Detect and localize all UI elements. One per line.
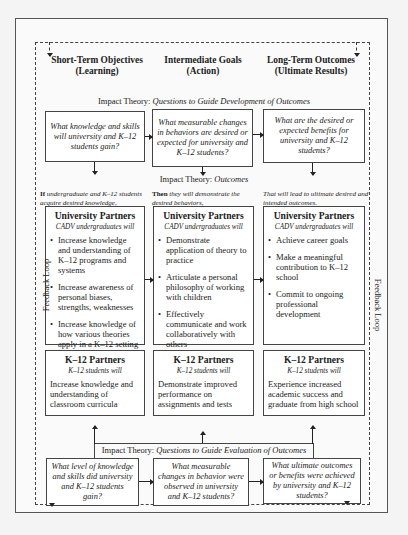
list-item: Commit to ongoing professional developme… (268, 289, 360, 319)
lead-then: Then they will demonstrate the desired b… (152, 190, 260, 207)
arrow-up-icon (312, 426, 313, 444)
list-item: Achieve career goals (268, 235, 360, 245)
feedback-loop-left-label: Feedback Loop (41, 255, 51, 315)
outcomes-heading: Impact Theory: Outcomes (34, 174, 374, 184)
list-item: Effectively communicate and work collabo… (158, 309, 249, 349)
k12-partners-long-term: K–12 Partners K–12 students will Experie… (263, 350, 365, 416)
loop-arrow-top-left-icon (49, 42, 50, 56)
list-item: Demonstrate application of theory to pra… (158, 235, 249, 265)
evaluation-question-2: What measurable changes in behavior were… (153, 458, 249, 506)
evaluation-question-1: What level of knowledge and skills did u… (46, 458, 139, 506)
list-item: Increase knowledge and understanding of … (50, 235, 140, 275)
arrow-right-icon (145, 279, 153, 280)
university-partners-short-term: University Partners CADV undergraduates … (45, 206, 145, 345)
university-partners-long-term: University Partners CADV undergraduates … (263, 206, 365, 345)
k12-partners-intermediate: K–12 Partners K–12 students will Demonst… (153, 350, 254, 416)
arrow-right-icon (249, 481, 263, 482)
development-question-1: What knowledge and skills will universit… (45, 111, 145, 162)
column-header-intermediate: Intermediate Goals (Action) (148, 55, 258, 77)
arrow-right-icon (253, 134, 263, 135)
arrow-right-icon (254, 279, 263, 280)
development-heading: Impact Theory: Questions to Guide Develo… (34, 96, 374, 106)
arrow-up-icon (94, 426, 95, 444)
development-question-3: What are the desired or expected benefit… (263, 109, 365, 163)
list-item: Make a meaningful contribution to K–12 s… (268, 252, 360, 282)
development-question-2: What measurable changes in behaviors are… (152, 109, 253, 167)
column-header-long-term: Long-Term Outcomes (Ultimate Results) (256, 55, 366, 77)
arrow-right-icon (145, 136, 152, 137)
arrow-right-icon (139, 481, 153, 482)
arrow-up-icon (202, 432, 203, 443)
evaluation-question-3: What ultimate outcomes or benefits were … (263, 458, 361, 504)
arrow-down-icon (94, 162, 95, 174)
lead-that: That will lead to ultimate desired and i… (263, 190, 371, 207)
k12-partners-short-term: K–12 Partners K–12 students will Increas… (45, 350, 145, 416)
loop-arrow-top-right-icon (356, 42, 357, 56)
list-item: Increase knowledge of how various theori… (50, 319, 140, 349)
lead-if: If undergraduate and K–12 students acqui… (40, 190, 148, 207)
list-item: Articulate a personal philosophy of work… (158, 272, 249, 302)
evaluation-heading: Impact Theory: Questions to Guide Evalua… (34, 445, 374, 455)
list-item: Increase awareness of personal biases, s… (50, 282, 140, 312)
column-header-short-term: Short-Term Objectives (Learning) (42, 55, 152, 77)
feedback-loop-right-label: Feedback Loop (373, 275, 383, 335)
university-partners-intermediate: University Partners CADV undergraduates … (153, 206, 254, 345)
